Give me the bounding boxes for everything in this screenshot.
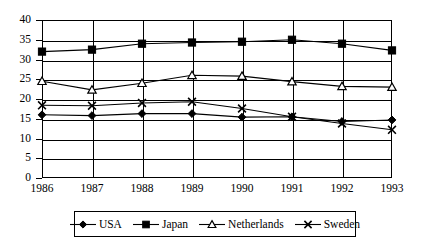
line-chart: 0510152025303540 19861987198819891990199…	[0, 0, 427, 250]
x-tick-label-1986: 1986	[15, 182, 69, 194]
chart-legend: USAJapanNetherlandsSweden	[74, 211, 356, 237]
legend-marker-open-triangle	[199, 218, 225, 231]
x-tick-label-1990: 1990	[215, 182, 269, 194]
x-tick-label-1989: 1989	[165, 182, 219, 194]
legend-item-japan[interactable]: Japan	[133, 218, 188, 231]
legend-label-usa: USA	[99, 218, 122, 230]
legend-item-usa[interactable]: USA	[70, 218, 122, 231]
data-point-usa-1989	[188, 110, 196, 118]
data-point-japan-1986	[38, 48, 45, 55]
x-tick-label-1987: 1987	[65, 182, 119, 194]
data-point-japan-1989	[188, 39, 195, 46]
data-point-japan-1992	[338, 40, 345, 47]
data-point-japan-1987	[88, 46, 95, 53]
series-japan	[38, 36, 395, 55]
data-point-usa-1987	[88, 112, 96, 120]
legend-marker-cross-x	[295, 218, 321, 231]
data-point-japan-1993	[388, 47, 395, 54]
legend-item-sweden[interactable]: Sweden	[295, 218, 360, 231]
legend-marker-filled-diamond	[70, 218, 96, 231]
data-point-usa-1986	[38, 111, 46, 119]
legend-label-sweden: Sweden	[324, 218, 360, 230]
data-point-usa-1988	[138, 110, 146, 118]
data-point-japan-1990	[238, 38, 245, 45]
data-point-usa-1993	[388, 116, 396, 124]
legend-label-japan: Japan	[162, 218, 188, 230]
data-point-japan-1991	[288, 36, 295, 43]
legend-label-netherlands: Netherlands	[228, 218, 284, 230]
x-tick-label-1993: 1993	[365, 182, 419, 194]
legend-marker-filled-square	[133, 218, 159, 231]
x-tick-label-1991: 1991	[265, 182, 319, 194]
x-tick-label-1988: 1988	[115, 182, 169, 194]
x-tick-label-1992: 1992	[315, 182, 369, 194]
data-point-usa-1990	[238, 113, 246, 121]
series-netherlands	[38, 71, 396, 93]
data-point-japan-1988	[138, 40, 145, 47]
data-point-netherlands-1986	[38, 77, 46, 84]
legend-item-netherlands[interactable]: Netherlands	[199, 218, 284, 231]
